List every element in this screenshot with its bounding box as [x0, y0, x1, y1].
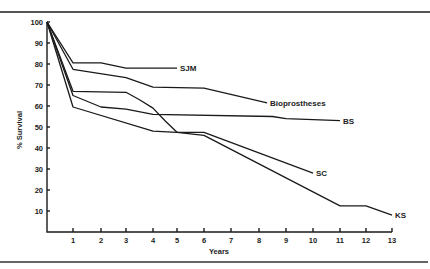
x-tick-label: 2	[99, 236, 103, 245]
series-label-sc: SC	[316, 169, 327, 178]
y-axis-title: % Survival	[15, 111, 24, 149]
y-tick-label: 30	[35, 165, 43, 174]
x-tick-label: 7	[229, 236, 233, 245]
x-tick-label: 12	[362, 236, 370, 245]
x-tick-label: 13	[388, 236, 396, 245]
y-tick-label: 80	[35, 60, 43, 69]
x-tick-label: 9	[284, 236, 288, 245]
y-tick-label: 90	[35, 39, 43, 48]
y-tick-label: 60	[35, 102, 43, 111]
series-label-bs: BS	[343, 117, 355, 126]
x-tick-label: 10	[309, 236, 317, 245]
x-tick-label: 8	[257, 236, 261, 245]
curve-sc	[47, 22, 313, 173]
y-tick-label: 10	[35, 207, 43, 216]
x-tick-label: 4	[151, 236, 156, 245]
x-axis-title: Years	[209, 247, 229, 256]
series-label-bioprostheses: Bioprostheses	[270, 99, 326, 108]
curve-sjm	[47, 22, 177, 68]
x-tick-label: 3	[124, 236, 128, 245]
series-label-sjm: SJM	[180, 64, 197, 73]
y-tick-label: 70	[35, 81, 43, 90]
x-tick-label: 11	[336, 236, 344, 245]
curve-ks	[47, 22, 392, 215]
series-label-ks: KS	[395, 211, 407, 220]
survival-chart: 10203040506070809010012345678910111213 S…	[0, 0, 430, 269]
y-tick-label: 40	[35, 144, 43, 153]
x-tick-label: 1	[71, 236, 75, 245]
x-tick-label: 5	[175, 236, 179, 245]
axis-lines	[47, 22, 392, 232]
y-tick-label: 50	[35, 123, 43, 132]
curves	[47, 22, 392, 215]
x-tick-label: 6	[202, 236, 206, 245]
axes: 10203040506070809010012345678910111213	[30, 18, 396, 245]
y-tick-label: 100	[30, 18, 43, 27]
y-tick-label: 20	[35, 186, 43, 195]
series-labels: SJMBioprosthesesBSSCKS	[180, 64, 407, 220]
